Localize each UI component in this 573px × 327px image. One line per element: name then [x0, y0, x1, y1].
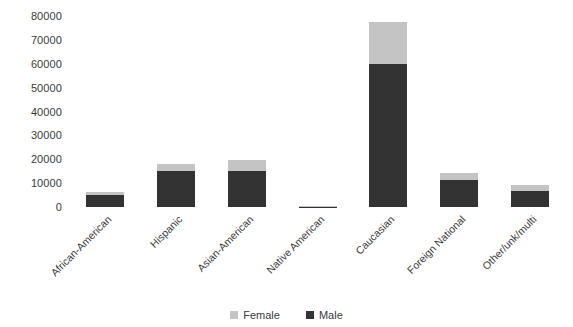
y-tick-label: 20000 [31, 153, 62, 165]
bar-segment-female[interactable] [228, 160, 266, 171]
bar-segment-male[interactable] [157, 171, 195, 207]
stacked-bar-chart: 0100002000030000400005000060000700008000… [0, 0, 573, 327]
bar-group[interactable] [228, 160, 266, 207]
bar-segment-male[interactable] [228, 171, 266, 207]
legend-item[interactable]: Female [230, 309, 280, 321]
bar-segment-male[interactable] [440, 180, 478, 207]
bar-group[interactable] [157, 164, 195, 207]
bar-segment-male[interactable] [369, 64, 407, 207]
plot-area [70, 16, 565, 207]
y-tick-label: 80000 [31, 10, 62, 22]
y-axis: 0100002000030000400005000060000700008000… [0, 0, 70, 327]
y-tick-label: 70000 [31, 34, 62, 46]
chart-legend: FemaleMale [0, 305, 573, 325]
y-tick-label: 10000 [31, 177, 62, 189]
y-tick-label: 50000 [31, 82, 62, 94]
bar-group[interactable] [369, 22, 407, 207]
y-tick-label: 30000 [31, 129, 62, 141]
bar-group[interactable] [511, 185, 549, 207]
bar-group[interactable] [86, 192, 124, 207]
y-tick-label: 40000 [31, 106, 62, 118]
bar-segment-male[interactable] [511, 191, 549, 207]
legend-swatch-icon [230, 311, 238, 319]
bar-segment-female[interactable] [369, 22, 407, 64]
legend-label: Female [243, 309, 280, 321]
x-axis: African-AmericanHispanicAsian-AmericanNa… [70, 207, 565, 297]
bar-segment-female[interactable] [157, 164, 195, 171]
legend-swatch-icon [306, 311, 314, 319]
bar-segment-male[interactable] [86, 195, 124, 207]
y-tick-label: 60000 [31, 58, 62, 70]
y-tick-label: 0 [56, 201, 62, 213]
legend-label: Male [319, 309, 343, 321]
legend-item[interactable]: Male [306, 309, 343, 321]
bar-group[interactable] [440, 173, 478, 207]
